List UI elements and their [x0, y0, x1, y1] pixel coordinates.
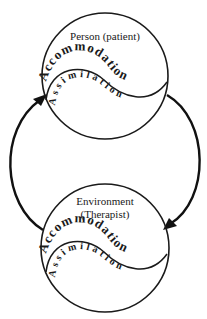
environment-node: Environment (Therapist) Accommodation As…	[35, 184, 169, 312]
environment-title-line1: Environment	[76, 195, 133, 207]
cycle-arrow-left	[10, 94, 47, 230]
cycle-arrow-right	[163, 95, 200, 230]
person-node: Person (patient) Accommodation Assimilat…	[35, 13, 168, 139]
interaction-cycle-diagram: Person (patient) Accommodation Assimilat…	[0, 0, 207, 319]
